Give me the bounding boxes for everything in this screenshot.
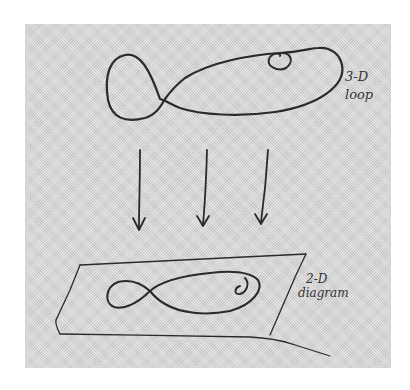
two-d-label-line2: diagram [298,286,349,300]
sketch-canvas [0,0,410,390]
three-d-loop-label: 3-D loop [345,70,373,102]
projection-arrows [133,150,268,230]
two-d-diagram-label: 2-D diagram [298,272,349,300]
three-d-label-line2: loop [345,88,373,102]
projection-plane [56,254,330,356]
three-d-label-line1: 3-D [345,70,373,84]
three-d-loop [107,48,343,120]
two-d-diagram [107,272,259,314]
two-d-label-line1: 2-D [306,272,349,286]
